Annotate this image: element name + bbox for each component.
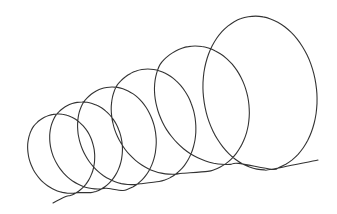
coil-drawing bbox=[0, 0, 337, 214]
coil-figure bbox=[0, 0, 337, 214]
coil-line bbox=[28, 16, 318, 203]
